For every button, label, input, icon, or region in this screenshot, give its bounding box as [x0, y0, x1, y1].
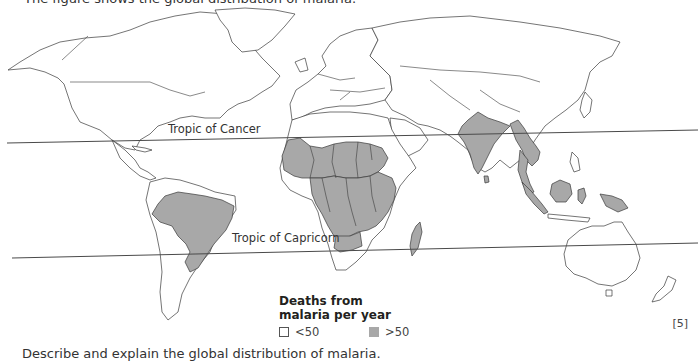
- legend-title-line1: Deaths from: [279, 294, 391, 308]
- legend-swatch-high: [369, 327, 379, 337]
- legend-item-low: <50: [279, 325, 319, 339]
- tropic-of-capricorn-label: Tropic of Capricorn: [232, 231, 340, 245]
- europe: [290, 28, 392, 120]
- shaded-borneo: [550, 180, 572, 202]
- australia: [564, 222, 676, 302]
- legend-swatch-low: [279, 327, 289, 337]
- tropic-of-cancer-label: Tropic of Cancer: [168, 122, 261, 136]
- legend-item-high: >50: [369, 325, 409, 339]
- question-footer: Describe and explain the global distribu…: [22, 346, 381, 361]
- legend-label-low: <50: [295, 325, 319, 339]
- shaded-sulawesi: [578, 188, 586, 204]
- marks-allocation: [5]: [672, 317, 688, 330]
- maritime-southeast-asia: [522, 180, 628, 222]
- shaded-papua-new-guinea: [600, 194, 628, 212]
- legend-title-line2: malaria per year: [279, 308, 391, 322]
- legend-label-high: >50: [385, 325, 409, 339]
- south-america: [146, 178, 236, 320]
- north-america: [8, 8, 295, 180]
- shaded-sumatra: [522, 182, 548, 214]
- legend: Deaths from malaria per year <50 >50: [279, 294, 391, 341]
- shaded-madagascar: [410, 222, 422, 256]
